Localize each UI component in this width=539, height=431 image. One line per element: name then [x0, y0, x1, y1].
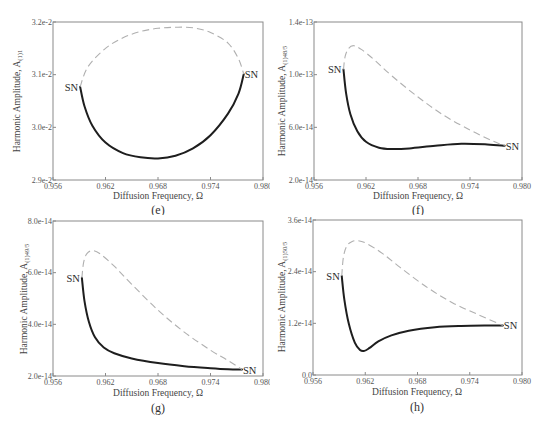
x-tick-label: 0.968 [409, 182, 427, 191]
y-tick-label: 2.9e-2 [32, 176, 52, 185]
plot-frame [314, 22, 522, 180]
y-tick-label: 6.0e-14 [289, 123, 313, 132]
svg-text:Harmonic Amplitude, A(1)48/5: Harmonic Amplitude, A(1)48/5 [277, 46, 289, 157]
panel-f: Harmonic Amplitude, A(1)48/5 Diffusion F… [270, 0, 539, 215]
y-tick-label: 3.2e-2 [32, 18, 52, 27]
plot-area: 0.9560.9620.9680.9740.9802.0e-144.0e-146… [28, 217, 270, 388]
y-tick-label: 3.1e-2 [32, 70, 52, 79]
x-tick-label: 0.962 [97, 378, 115, 387]
y-tick-label: 1.4e-13 [289, 18, 313, 27]
x-tick-label: 0.968 [149, 378, 167, 387]
y-tick-label: 6.0e-14 [28, 268, 52, 277]
plot-area: 0.9560.9620.9680.9740.9802.9e-23.0e-23.1… [32, 18, 270, 192]
x-axis: 0.9560.9620.9680.9740.980 [305, 177, 531, 191]
plot-area: 0.9560.9620.9680.9740.9800.01.2e-142.4e-… [288, 216, 531, 387]
x-tick-label: 0.968 [149, 182, 167, 191]
x-tick-label: 0.974 [461, 377, 479, 386]
unstable-branch-curve [343, 46, 504, 146]
stable-branch-curve [80, 74, 244, 158]
svg-text:Harmonic Amplitude, A(1)49/5: Harmonic Amplitude, A(1)49/5 [19, 244, 31, 355]
saddle-node-label: SN [66, 273, 80, 284]
x-tick-label: 0.974 [461, 182, 479, 191]
y-tick-label: 3.0e-2 [32, 123, 52, 132]
unstable-branch-curve [82, 251, 242, 370]
stable-branch-curve [342, 276, 503, 351]
y-tick-label: 1.0e-13 [289, 70, 313, 79]
x-axis-label: Diffusion Frequency, Ω [372, 387, 462, 397]
x-tick-label: 0.974 [202, 378, 220, 387]
ylabel-subscript: (1)50/5 [281, 242, 289, 261]
stable-branch-curve [343, 69, 504, 149]
panel-caption: (g) [151, 401, 165, 415]
y-axis-label: Harmonic Amplitude, A(1)1 [12, 50, 24, 152]
plot-frame [53, 22, 263, 180]
y-tick-label: 2.4e-14 [288, 267, 312, 276]
y-tick-label: 3.6e-14 [288, 216, 312, 225]
panel-g: Harmonic Amplitude, A(1)49/5 Diffusion F… [0, 215, 270, 431]
y-axis-label: Harmonic Amplitude, A(1)48/5 [277, 46, 289, 157]
y-tick-label: 8.0e-14 [28, 217, 52, 226]
unstable-branch-curve [342, 241, 503, 326]
unstable-branch-curve [80, 27, 244, 87]
x-tick-label: 0.962 [356, 377, 374, 386]
panel-caption: (h) [410, 400, 424, 414]
x-tick-label: 0.974 [202, 182, 220, 191]
plot-area: 0.9560.9620.9680.9740.9802.0e-146.0e-141… [289, 18, 531, 192]
y-axis: 0.01.2e-142.4e-143.6e-14 [288, 216, 316, 380]
x-tick-label: 0.980 [254, 182, 270, 191]
ylabel-subscript: (1)1 [16, 50, 24, 61]
x-tick-label: 0.962 [357, 182, 375, 191]
ylabel-subscript: (1)48/5 [281, 46, 289, 65]
x-axis-label: Diffusion Frequency, Ω [373, 191, 463, 201]
x-tick-label: 0.980 [513, 377, 531, 386]
ylabel-subscript: (1)49/5 [23, 244, 31, 263]
y-axis-label: Harmonic Amplitude, A(1)50/5 [277, 242, 289, 353]
y-tick-label: 2.0e-14 [28, 372, 52, 381]
panel-e: Harmonic Amplitude, A(1)1 Diffusion Freq… [0, 0, 270, 215]
svg-text:Harmonic Amplitude, A(1)1: Harmonic Amplitude, A(1)1 [12, 50, 24, 152]
y-axis-label: Harmonic Amplitude, A(1)49/5 [19, 244, 31, 355]
saddle-node-label: SN [245, 69, 259, 80]
saddle-node-label: SN [65, 82, 79, 93]
y-tick-label: 0.0 [302, 371, 312, 380]
saddle-node-label: SN [504, 320, 518, 331]
saddle-node-label: SN [243, 365, 257, 376]
y-axis: 2.9e-23.0e-23.1e-23.2e-2 [32, 18, 56, 185]
x-axis: 0.9560.9620.9680.9740.980 [44, 177, 270, 191]
y-tick-label: 2.0e-14 [289, 176, 313, 185]
x-axis-label: Diffusion Frequency, Ω [113, 388, 203, 398]
x-axis: 0.9560.9620.9680.9740.980 [304, 372, 531, 386]
panel-caption: (f) [412, 203, 424, 215]
x-axis: 0.9560.9620.9680.9740.980 [44, 373, 270, 387]
saddle-node-label: SN [326, 271, 340, 282]
saddle-node-label: SN [328, 64, 342, 75]
panel-caption: (e) [151, 203, 164, 215]
y-axis: 2.0e-144.0e-146.0e-148.0e-14 [28, 217, 56, 381]
svg-text:Harmonic Amplitude, A(1)50/5: Harmonic Amplitude, A(1)50/5 [277, 242, 289, 353]
y-tick-label: 4.0e-14 [28, 320, 52, 329]
y-axis: 2.0e-146.0e-141.0e-131.4e-13 [289, 18, 317, 185]
x-tick-label: 0.968 [409, 377, 427, 386]
stable-branch-curve [82, 278, 242, 370]
x-axis-label: Diffusion Frequency, Ω [113, 191, 203, 201]
panel-h: Harmonic Amplitude, A(1)50/5 Diffusion F… [270, 215, 539, 431]
saddle-node-label: SN [506, 141, 520, 152]
x-tick-label: 0.980 [254, 378, 270, 387]
x-tick-label: 0.980 [513, 182, 531, 191]
y-tick-label: 1.2e-14 [288, 319, 312, 328]
x-tick-label: 0.962 [97, 182, 115, 191]
